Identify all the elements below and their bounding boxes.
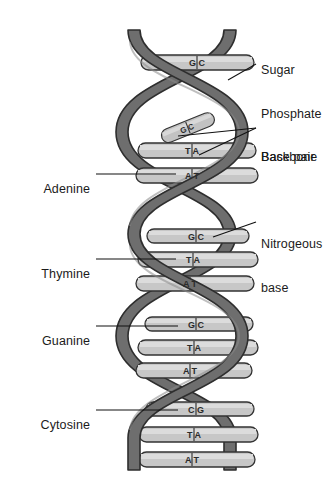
label-nitrogeous-base-line-1: Nitrogeous — [261, 237, 322, 252]
base-pair-label-12: T A — [187, 430, 202, 440]
base-pair-label-8: G C — [188, 320, 205, 330]
base-pair-label-5: G C — [188, 232, 205, 242]
label-guanine: Guanine — [0, 319, 90, 363]
label-thymine: Thymine — [0, 252, 90, 296]
label-sugar-phosphate-backbone-line-1: Sugar — [261, 63, 322, 78]
base-pair-label-4: A T — [185, 171, 200, 181]
label-adenine-text: Adenine — [43, 182, 90, 196]
label-guanine-text: Guanine — [42, 334, 90, 348]
label-nitrogeous-base-line-2: base — [261, 281, 322, 296]
label-nitrogeous-base: Nitrogeous base — [261, 208, 322, 324]
dna-diagram: G C G C T A A T G C T A A T G C T A A T … — [0, 0, 336, 492]
label-sugar-phosphate-backbone-line-2: Phosphate — [261, 107, 322, 122]
base-pair-label-9: T A — [187, 343, 202, 353]
label-base-pair-line-1: Base pair — [261, 150, 315, 165]
label-adenine: Adenine — [0, 167, 90, 211]
label-cytosine: Cytosine — [0, 403, 90, 447]
base-pair-label-11: C G — [188, 405, 204, 415]
base-pair-label-10: A T — [183, 366, 198, 376]
base-pair-label-3: T A — [185, 146, 200, 156]
base-pair-label-13: A T — [185, 455, 200, 465]
base-pair-label-7: A T — [183, 279, 198, 289]
base-pair-label-1: G C — [189, 58, 206, 68]
label-thymine-text: Thymine — [41, 267, 90, 281]
label-base-pair: Base pair — [261, 121, 315, 194]
base-pair-label-6: T A — [186, 255, 201, 265]
label-cytosine-text: Cytosine — [41, 418, 90, 432]
